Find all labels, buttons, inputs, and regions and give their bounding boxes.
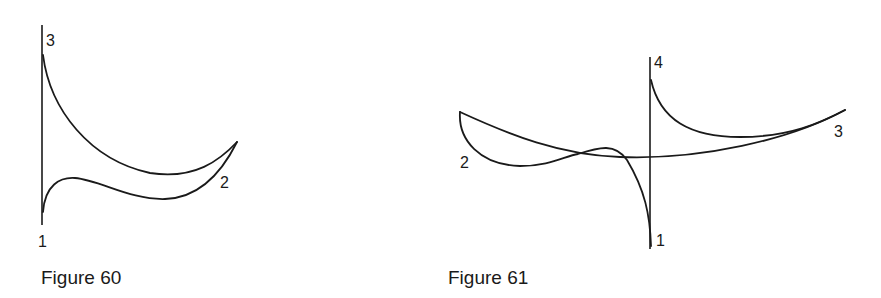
point-label-2: 2 bbox=[460, 155, 469, 171]
figure-60-drawing bbox=[0, 0, 300, 298]
curve-2-to-3 bbox=[460, 110, 845, 157]
point-label-1: 1 bbox=[656, 233, 665, 249]
point-label-2: 2 bbox=[220, 175, 229, 191]
point-label-1: 1 bbox=[38, 234, 47, 250]
point-label-3: 3 bbox=[834, 124, 843, 140]
curve-4-to-3 bbox=[651, 80, 845, 137]
figure-60: 3 2 1 Figure 60 bbox=[0, 0, 300, 298]
upper-curve-3-to-2 bbox=[43, 55, 237, 174]
figure-caption: Figure 61 bbox=[448, 268, 528, 288]
figure-61-drawing bbox=[430, 0, 881, 298]
point-label-4: 4 bbox=[654, 55, 663, 71]
point-label-3: 3 bbox=[46, 33, 55, 49]
lower-curve-1-to-2 bbox=[43, 142, 237, 212]
figure-caption: Figure 60 bbox=[41, 268, 121, 288]
curve-2-to-1 bbox=[460, 112, 651, 246]
figure-61: 4 3 2 1 Figure 61 bbox=[430, 0, 881, 298]
